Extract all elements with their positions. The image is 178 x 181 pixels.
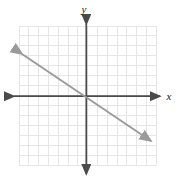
x-axis-label: x xyxy=(166,90,172,102)
y-axis-label: y xyxy=(81,3,87,15)
coordinate-plane-figure: y x xyxy=(0,0,178,181)
graph-canvas: y x xyxy=(0,0,178,181)
axes xyxy=(14,24,160,174)
